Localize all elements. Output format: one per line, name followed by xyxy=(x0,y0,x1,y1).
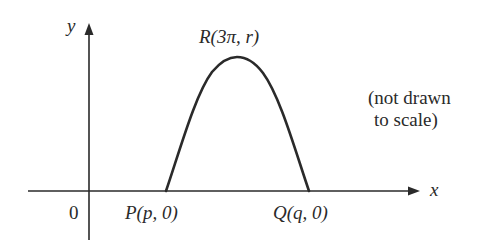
x-axis-label: x xyxy=(430,180,438,199)
y-axis-label: y xyxy=(67,16,75,35)
point-q-label: Q(q, 0) xyxy=(273,203,328,222)
x-axis-arrow-icon xyxy=(408,187,420,196)
y-axis-arrow-icon xyxy=(85,23,94,35)
note-line-2: to scale) xyxy=(374,110,438,129)
curve xyxy=(166,57,309,191)
note-line-1: (not drawn xyxy=(368,88,451,107)
point-r-label: R(3π, r) xyxy=(199,27,259,46)
origin-label: 0 xyxy=(69,203,79,222)
point-p-label: P(p, 0) xyxy=(125,203,178,222)
